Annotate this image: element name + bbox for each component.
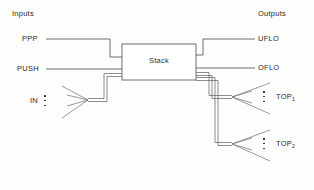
in-bus-fan (62, 86, 88, 118)
top2-bus-ellipsis-dots (263, 138, 266, 152)
wire-in-bus (88, 74, 122, 102)
stack-block-diagram: Inputs Outputs Stack PPP PUSH IN UFLO OF… (0, 0, 314, 190)
wire-top1-bus (196, 73, 232, 99)
output-label-top1-subscript: 1 (292, 96, 295, 102)
output-label-top1: TOP1 (276, 93, 295, 101)
in-bus-ellipsis-dots (44, 95, 47, 109)
inputs-heading: Inputs (12, 10, 34, 18)
wire-ppp (46, 39, 122, 57)
wire-top2-bus (196, 78, 232, 146)
input-label-ppp: PPP (22, 35, 38, 43)
output-label-top1-text: TOP (276, 92, 292, 101)
top1-bus-ellipsis-dots (263, 91, 266, 105)
outputs-heading: Outputs (258, 10, 286, 18)
wire-layer (0, 0, 314, 190)
stack-block-label: Stack (122, 56, 196, 65)
output-label-top2: TOP2 (276, 140, 295, 148)
output-label-oflo: OFLO (258, 64, 279, 72)
input-label-in: IN (30, 97, 38, 105)
wire-uflo (196, 39, 255, 55)
output-label-top2-subscript: 2 (292, 143, 295, 149)
output-label-top2-text: TOP (276, 139, 292, 148)
output-label-uflo: UFLO (258, 35, 279, 43)
input-label-push: PUSH (17, 65, 39, 73)
